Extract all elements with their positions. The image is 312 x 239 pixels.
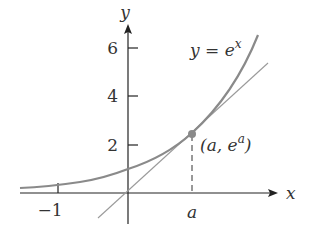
point-label-close: ) xyxy=(244,135,252,155)
tangent-point xyxy=(188,130,196,138)
curve-label-exponent: x xyxy=(235,37,242,51)
y-axis-label: y xyxy=(119,2,130,22)
exponential-tangent-diagram: y x 2 4 6 −1 a y = ex (a, ea) xyxy=(0,0,312,239)
x-tick-label-a: a xyxy=(187,202,197,222)
y-tick-label-6: 6 xyxy=(107,38,118,58)
point-label-base: (a, e xyxy=(200,135,238,155)
point-label-exponent: a xyxy=(238,132,245,146)
y-tick-label-4: 4 xyxy=(107,86,118,106)
curve-label: y = ex xyxy=(189,37,242,60)
x-tick-label-neg1: −1 xyxy=(37,200,62,220)
y-tick-label-2: 2 xyxy=(107,135,118,155)
point-label: (a, ea) xyxy=(200,132,251,155)
curve-label-base: y = e xyxy=(189,40,235,60)
x-axis-label: x xyxy=(286,183,296,203)
